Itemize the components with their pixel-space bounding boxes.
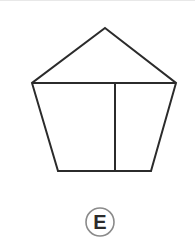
figure-page: E [0, 0, 195, 247]
pentagon-outline [32, 28, 176, 171]
answer-badge: E [86, 208, 114, 236]
answer-badge-letter: E [93, 211, 106, 233]
geometry-figure: E [0, 1, 195, 247]
